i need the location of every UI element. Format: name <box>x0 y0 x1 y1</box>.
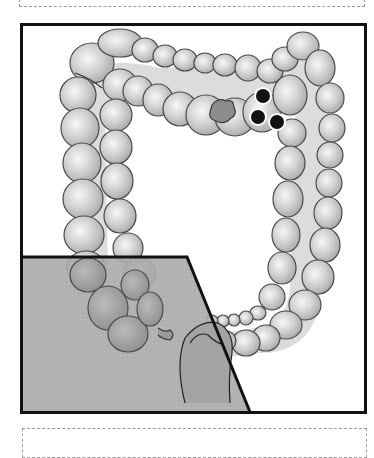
colon-figure: Colon illustration <box>20 23 367 414</box>
bottom-caption-box <box>22 428 367 458</box>
marker-2 <box>250 109 266 125</box>
marker-1 <box>255 88 271 104</box>
marker-3 <box>269 114 285 130</box>
bottom-caption-text <box>23 429 24 430</box>
top-caption-box <box>19 0 365 7</box>
